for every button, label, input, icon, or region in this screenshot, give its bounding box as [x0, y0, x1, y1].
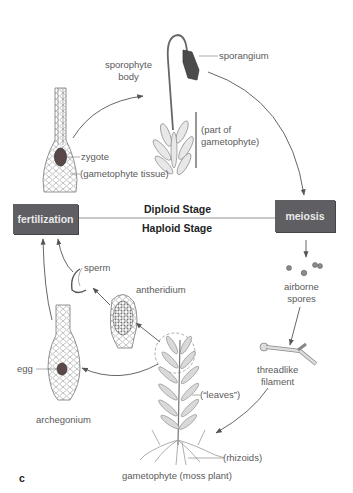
- panel-letter: c: [19, 472, 25, 485]
- sperm-label: sperm: [84, 262, 110, 274]
- arrow-antheridium-to-sperm: [93, 288, 110, 305]
- sporophyte-body-label: sporophyte body: [105, 59, 152, 83]
- arrow-sperm-to-fertilization: [58, 239, 73, 272]
- sporophyte-illustration: [151, 35, 218, 176]
- arrow-zygote-to-sporophyte: [73, 96, 143, 138]
- archegonium-label: archegonium: [36, 414, 91, 426]
- sporangium-capsule: [183, 50, 199, 80]
- sporangium-label: sporangium: [219, 50, 269, 62]
- antheridium-illustration: [110, 294, 137, 348]
- archegonium-illustration: [36, 305, 80, 400]
- leaves-label: (“leaves”): [200, 389, 240, 401]
- threadlike-filament-illustration: [260, 343, 316, 364]
- diploid-stage-label: Diploid Stage: [144, 203, 211, 215]
- arrow-spores-to-filament: [290, 307, 300, 345]
- fertilization-box: fertilization: [13, 204, 78, 234]
- haploid-stage-label: Haploid Stage: [142, 222, 212, 234]
- meiosis-box: meiosis: [275, 200, 335, 232]
- rhizoids-label: (rhizoids): [223, 452, 262, 464]
- fertilization-label: fertilization: [17, 213, 73, 225]
- meiosis-label: meiosis: [285, 210, 324, 222]
- egg-cell: [57, 363, 67, 375]
- arrow-archegonium-to-fertilization: [43, 239, 52, 320]
- airborne-spores-illustration: [287, 263, 323, 276]
- antheridium-label: antheridium: [136, 284, 186, 296]
- arrow-gametophyte-to-antheridium: [136, 323, 160, 342]
- zygote-label: zygote: [81, 151, 109, 163]
- gametophyte-tissue-label: (gametophyte tissue): [80, 168, 169, 180]
- egg-label: egg: [17, 363, 33, 375]
- threadlike-filament-label: threadlike filament: [257, 364, 298, 388]
- part-of-gametophyte-label: (part of gametophyte): [201, 124, 259, 148]
- zygote-cell: [55, 148, 67, 166]
- airborne-spores-label: airborne spores: [284, 281, 319, 305]
- arrow-gametophyte-to-archegonium: [82, 364, 158, 376]
- zygote-archegonium-illustration: [43, 88, 77, 192]
- gametophyte-moss-plant-label: gametophyte (moss plant): [122, 470, 232, 482]
